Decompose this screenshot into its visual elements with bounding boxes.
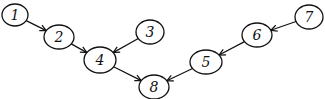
edge-6-to-5 [219,42,244,55]
node-2: 2 [44,25,74,49]
dependency-graph: 12348567 [0,0,325,99]
node-label: 1 [11,7,20,23]
edge-4-to-8 [114,67,142,81]
edge-7-to-6 [271,21,296,31]
node-1: 1 [2,4,28,26]
node-3: 3 [136,20,164,44]
node-label: 6 [253,27,262,43]
node-label: 5 [202,54,211,70]
node-label: 8 [150,79,159,95]
node-7: 7 [295,5,323,29]
edge-1-to-2 [26,21,46,31]
node-label: 3 [146,24,155,40]
node-6: 6 [242,23,272,47]
node-5: 5 [190,50,222,74]
edge-2-to-4 [71,44,87,53]
node-label: 4 [95,52,105,68]
node-label: 2 [54,29,64,45]
node-8: 8 [139,75,169,99]
edge-5-to-8 [167,68,193,80]
node-4: 4 [84,47,116,73]
nodes-layer: 12348567 [2,4,323,99]
node-label: 7 [305,9,314,25]
edge-3-to-4 [113,39,138,53]
